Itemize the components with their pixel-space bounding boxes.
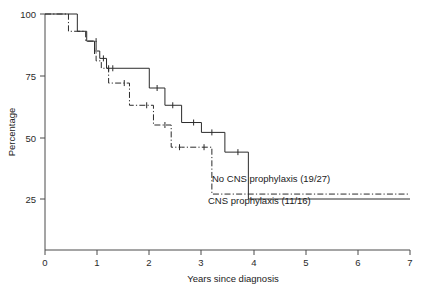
y-tick-label-50: 50 xyxy=(25,133,36,144)
series-curves xyxy=(45,14,410,199)
chart-svg: 100 75 50 25 0 1 2 3 4 5 6 7 Percentage … xyxy=(0,0,430,289)
x-tick-label-2: 2 xyxy=(146,257,151,268)
y-axis-title: Percentage xyxy=(6,108,17,157)
curve-cns-prophylaxis xyxy=(45,14,410,194)
curve-no-cns-prophylaxis xyxy=(45,14,410,199)
x-tick-label-0: 0 xyxy=(42,257,47,268)
x-tick-label-1: 1 xyxy=(94,257,99,268)
x-axis-title: Years since diagnosis xyxy=(187,273,279,284)
y-tick-label-75: 75 xyxy=(25,71,36,82)
x-tick-labels: 0 1 2 3 4 5 6 7 xyxy=(42,257,412,268)
survival-chart-figure: 100 75 50 25 0 1 2 3 4 5 6 7 Percentage … xyxy=(0,0,430,289)
y-tick-labels: 100 75 50 25 xyxy=(20,9,36,205)
y-tick-label-25: 25 xyxy=(25,194,36,205)
y-tick-label-100: 100 xyxy=(20,9,36,20)
x-tick-label-7: 7 xyxy=(407,257,412,268)
x-tick-label-4: 4 xyxy=(251,257,256,268)
x-tick-label-6: 6 xyxy=(355,257,360,268)
censor-marks-cns-prophylaxis xyxy=(96,38,204,150)
series-label-no-cns-prophylaxis: No CNS prophylaxis (19/27) xyxy=(212,173,330,184)
series-label-cns-prophylaxis: CNS prophylaxis (11/16) xyxy=(208,195,311,206)
censor-marks-no-cns-prophylaxis xyxy=(95,48,238,155)
x-tick-label-3: 3 xyxy=(198,257,203,268)
x-tick-label-5: 5 xyxy=(303,257,308,268)
